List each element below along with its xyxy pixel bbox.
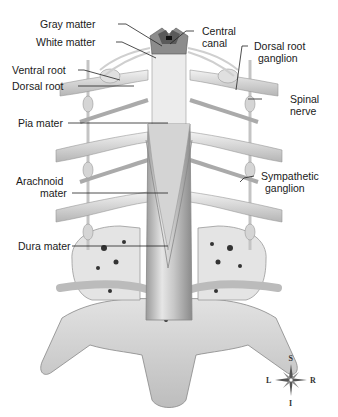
label-ventral-root: Ventral root	[12, 64, 66, 76]
cord-cross-section	[150, 28, 188, 54]
compass-s: S	[289, 354, 294, 363]
label-sympathetic-ganglion-line2: ganglion	[265, 182, 305, 194]
label-central-canal-line2: canal	[202, 37, 227, 49]
label-dorsal-root-ganglion-line2: ganglion	[258, 52, 298, 64]
spinal-cord	[146, 52, 192, 320]
label-central-canal-line1: Central	[202, 25, 236, 37]
label-dorsal-root-ganglion-line1: Dorsal root	[254, 40, 305, 52]
label-spinal-nerve-line1: Spinal	[290, 93, 319, 105]
label-dorsal-root: Dorsal root	[12, 80, 63, 92]
label-arachnoid-mater-line1: Arachnoid	[16, 175, 63, 187]
label-arachnoid-mater-line2: mater	[40, 187, 67, 199]
label-spinal-nerve-line2: nerve	[290, 105, 316, 117]
label-gray-matter: Gray matter	[40, 18, 95, 30]
compass-l: L	[266, 376, 271, 385]
label-white-matter: White matter	[36, 36, 96, 48]
label-pia-mater: Pia mater	[18, 117, 63, 129]
compass-r: R	[310, 376, 316, 385]
compass-i: I	[289, 399, 292, 408]
central-canal	[166, 36, 172, 40]
label-dura-mater: Dura mater	[18, 240, 71, 252]
label-sympathetic-ganglion-line1: Sympathetic	[261, 170, 319, 182]
